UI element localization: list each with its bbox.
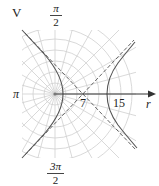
angle-label-pi-over-2: π 2 xyxy=(50,3,62,28)
tick-label-15: 15 xyxy=(113,97,125,109)
polar-hyperbola-diagram xyxy=(0,0,159,186)
angle-label-denominator: 2 xyxy=(50,16,62,28)
tick-label-7: 7 xyxy=(80,97,86,109)
angle-label-numerator: 3π xyxy=(47,161,64,174)
angle-label-3pi-over-2: 3π 2 xyxy=(47,161,64,186)
panel-label: V xyxy=(12,6,21,19)
polar-axis xyxy=(53,91,156,98)
angle-label-numerator: π xyxy=(50,3,62,16)
axis-label-r: r xyxy=(146,98,151,110)
angle-label-denominator: 2 xyxy=(47,174,64,186)
angle-label-pi: π xyxy=(13,88,19,100)
polar-grid xyxy=(0,0,155,186)
pole xyxy=(53,92,56,95)
